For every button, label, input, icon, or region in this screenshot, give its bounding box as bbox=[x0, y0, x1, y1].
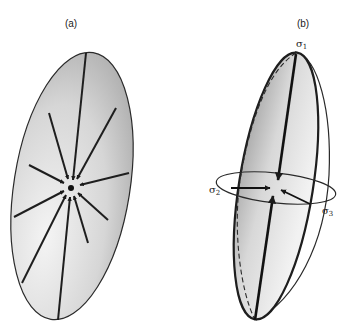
panel-b: (b) σ1 σ2 σ3 bbox=[209, 18, 337, 325]
stress-ellipsoid-diagram: (a) (b) σ1 bbox=[0, 0, 356, 332]
panel-b-label: (b) bbox=[297, 18, 309, 29]
panel-a: (a) bbox=[0, 18, 150, 328]
stress-ellipse-a bbox=[0, 44, 150, 329]
center-point bbox=[68, 185, 74, 191]
panel-a-label: (a) bbox=[65, 18, 77, 29]
sigma1-label: σ1 bbox=[296, 38, 307, 51]
